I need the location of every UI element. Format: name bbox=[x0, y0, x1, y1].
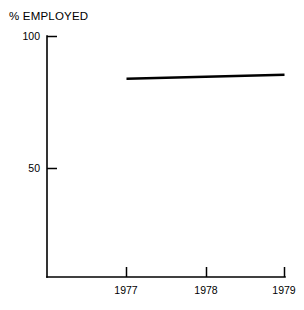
y-axis-tick-label-100: 100 bbox=[6, 31, 40, 42]
x-axis-tick-label-1979: 1979 bbox=[262, 285, 304, 296]
x-axis-tick-label-1978: 1978 bbox=[184, 285, 228, 296]
x-axis-tick-label-1977: 1977 bbox=[104, 285, 148, 296]
y-axis-tick-label-50: 50 bbox=[6, 163, 40, 174]
chart-title: % EMPLOYED bbox=[9, 11, 88, 23]
employment-line-chart: % EMPLOYED 100 50 1977 1978 1979 bbox=[0, 0, 304, 310]
series-line-employed bbox=[127, 75, 285, 79]
chart-canvas bbox=[0, 0, 304, 310]
